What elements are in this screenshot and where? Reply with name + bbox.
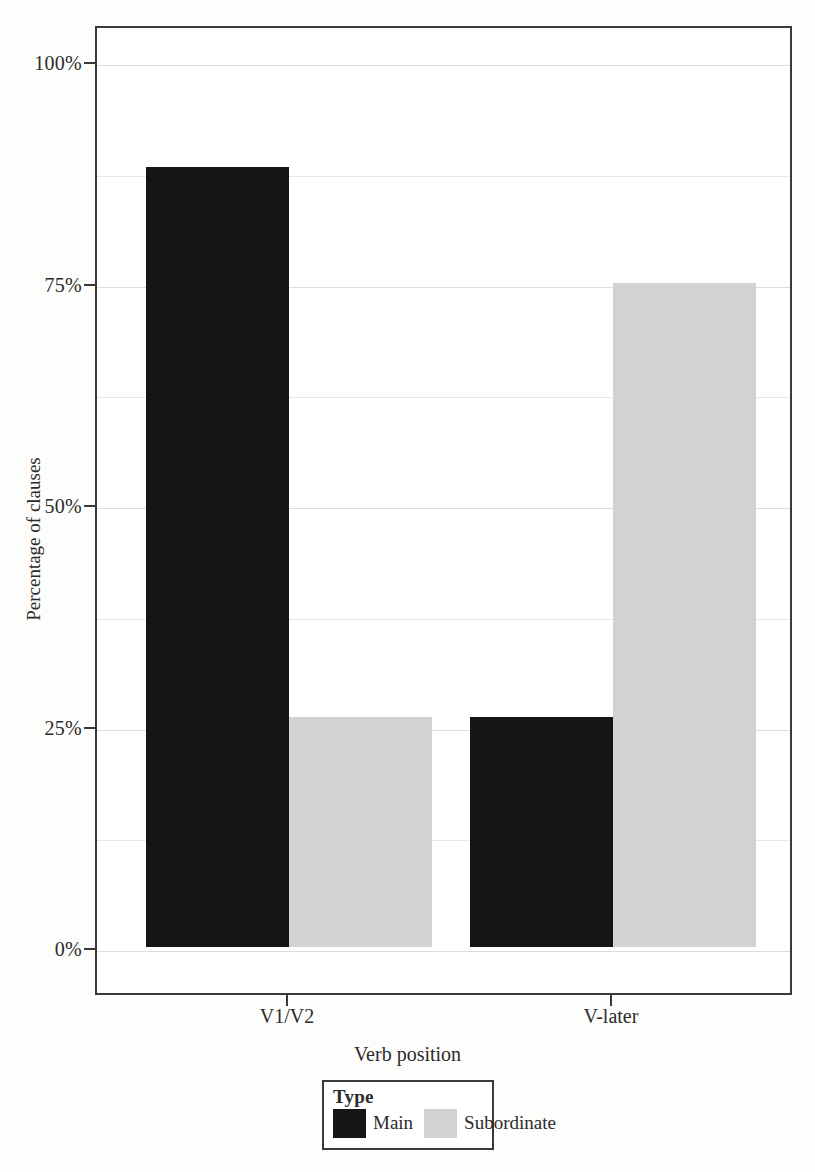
y-axis-tick-label: 50% <box>44 495 82 518</box>
y-axis-tick-label: 0% <box>55 938 82 961</box>
y-axis-tick-mark <box>84 505 95 507</box>
legend-title: Type <box>333 1087 483 1107</box>
legend-label-main: Main <box>373 1112 413 1134</box>
legend-item-subordinate: Subordinate <box>424 1109 556 1138</box>
legend-swatch-main <box>333 1109 366 1138</box>
bar-chart-figure: Percentage of clauses 0%25%50%75%100% V1… <box>0 0 815 1172</box>
legend-items: Main Subordinate <box>333 1109 483 1138</box>
bar-v1v2-main <box>146 167 289 947</box>
x-axis-tick-label: V-later <box>584 1005 639 1028</box>
legend-label-subordinate: Subordinate <box>464 1112 556 1134</box>
y-axis-tick-mark <box>84 948 95 950</box>
plot-panel <box>95 26 792 995</box>
x-axis-tick-label: V1/V2 <box>260 1005 314 1028</box>
legend: Type Main Subordinate <box>322 1080 494 1150</box>
plot-area <box>97 28 790 993</box>
y-axis-tick-labels: 0%25%50%75%100% <box>0 0 82 1172</box>
legend-item-main: Main <box>333 1109 413 1138</box>
y-axis-tick-mark <box>84 727 95 729</box>
x-axis-title: Verb position <box>0 1043 815 1066</box>
y-axis-tick-mark <box>84 62 95 64</box>
bar-vlater-subordinate <box>613 283 756 948</box>
y-axis-tick-mark <box>84 284 95 286</box>
legend-swatch-subordinate <box>424 1109 457 1138</box>
gridline-major <box>97 65 790 66</box>
y-axis-tick-label: 75% <box>44 273 82 296</box>
y-axis-tick-label: 100% <box>34 52 82 75</box>
y-axis-tick-label: 25% <box>44 716 82 739</box>
bar-vlater-main <box>470 717 613 947</box>
gridline-major <box>97 951 790 952</box>
bar-v1v2-subordinate <box>289 717 432 947</box>
